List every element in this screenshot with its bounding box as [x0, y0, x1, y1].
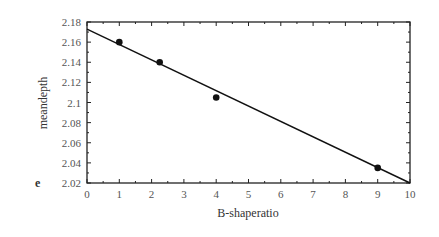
data-point — [374, 165, 381, 172]
y-tick-label: 2.1 — [67, 97, 81, 109]
scatter-chart: 2.022.042.062.082.12.122.142.162.18 0123… — [0, 0, 439, 237]
y-tick-label: 2.04 — [62, 157, 82, 169]
y-tick-label: 2.16 — [62, 36, 82, 48]
y-tick-label: 2.18 — [62, 16, 82, 28]
x-tick-label: 9 — [375, 188, 381, 200]
data-point — [116, 39, 123, 46]
y-tick-label: 2.02 — [62, 177, 81, 189]
x-tick-label: 0 — [84, 188, 90, 200]
x-tick-label: 4 — [213, 188, 219, 200]
x-axis: 012345678910 — [84, 22, 416, 200]
x-tick-label: 1 — [117, 188, 123, 200]
x-axis-label: B-shaperatio — [217, 206, 278, 220]
y-tick-label: 2.06 — [62, 137, 82, 149]
data-point — [213, 94, 220, 101]
x-tick-label: 8 — [343, 188, 349, 200]
x-tick-label: 7 — [310, 188, 316, 200]
data-points — [116, 39, 381, 171]
plot-frame — [87, 22, 410, 183]
x-tick-label: 3 — [181, 188, 187, 200]
x-tick-label: 2 — [149, 188, 155, 200]
y-axis-label: meandepth — [36, 77, 50, 130]
regression-line — [87, 29, 410, 183]
y-tick-label: 2.14 — [62, 56, 82, 68]
x-tick-label: 6 — [278, 188, 284, 200]
x-tick-label: 10 — [405, 188, 417, 200]
x-tick-label: 5 — [246, 188, 252, 200]
panel-label: e — [35, 176, 41, 190]
data-point — [156, 59, 163, 66]
y-tick-label: 2.08 — [62, 117, 82, 129]
y-tick-label: 2.12 — [62, 76, 81, 88]
